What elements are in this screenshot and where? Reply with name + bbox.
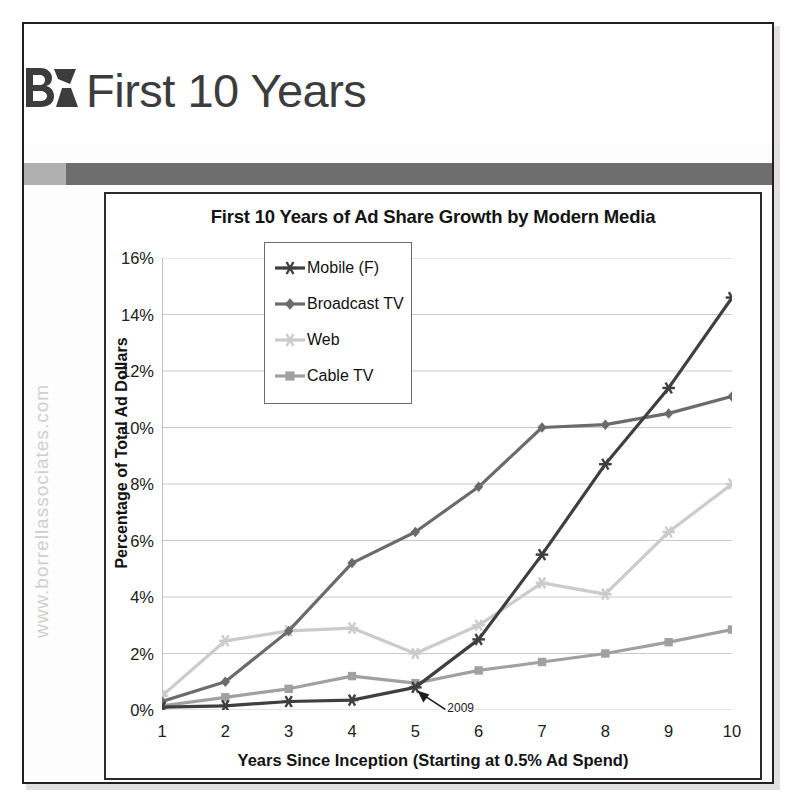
y-tick-label: 14%	[121, 305, 154, 324]
plot-area: 0%2%4%6%8%10%12%14%16% 12345678910 2009	[162, 258, 732, 710]
legend-label: Mobile (F)	[307, 259, 379, 277]
x-tick-label: 7	[537, 722, 546, 741]
x-tick-label: 8	[601, 722, 610, 741]
x-tick-label: 2	[221, 722, 230, 741]
legend-marker-diamond-icon	[273, 296, 307, 312]
chart-title: First 10 Years of Ad Share Growth by Mod…	[106, 206, 760, 228]
legend-label: Broadcast TV	[307, 295, 404, 313]
chart-legend: Mobile (F) Broadcast TV Web Cable TV	[264, 242, 412, 404]
series-web	[162, 479, 732, 702]
x-tick-label: 6	[474, 722, 483, 741]
legend-item-web[interactable]: Web	[273, 322, 406, 358]
legend-marker-square-icon	[273, 368, 307, 384]
y-tick-label: 8%	[130, 475, 154, 494]
x-axis-title: Years Since Inception (Starting at 0.5% …	[106, 751, 760, 770]
x-tick-label: 1	[157, 722, 166, 741]
x-tick-label: 5	[411, 722, 420, 741]
x-tick-label: 10	[723, 722, 741, 741]
y-tick-label: 12%	[121, 362, 154, 381]
legend-item-broadcast-tv[interactable]: Broadcast TV	[273, 286, 406, 322]
legend-marker-star-icon	[273, 332, 307, 348]
gridlines	[162, 258, 732, 710]
legend-marker-star-icon	[273, 260, 307, 276]
y-tick-label: 0%	[130, 701, 154, 720]
legend-item-cable-tv[interactable]: Cable TV	[273, 358, 406, 394]
y-tick-label: 4%	[130, 588, 154, 607]
x-tick-label: 3	[284, 722, 293, 741]
x-tick-label: 9	[664, 722, 673, 741]
y-tick-label: 2%	[130, 644, 154, 663]
data-series-layer	[162, 292, 732, 710]
legend-item-mobile[interactable]: Mobile (F)	[273, 250, 406, 286]
legend-label: Web	[307, 331, 340, 349]
x-tick-label: 4	[347, 722, 356, 741]
chart-container: First 10 Years of Ad Share Growth by Mod…	[104, 192, 762, 780]
annotation-layer	[417, 690, 445, 709]
series-broadcast-tv	[162, 391, 732, 707]
y-tick-label: 16%	[121, 249, 154, 268]
borrell-associates-logo-icon	[24, 66, 80, 118]
annotation-2009-label: 2009	[447, 701, 474, 715]
y-tick-label: 10%	[121, 418, 154, 437]
scanned-page: First 10 Years www.borrellassociates.com…	[0, 0, 794, 808]
legend-label: Cable TV	[307, 367, 373, 385]
page-title: First 10 Years	[86, 62, 366, 120]
divider-bar-dark	[66, 163, 772, 185]
chart-svg	[162, 258, 732, 710]
y-tick-label: 6%	[130, 531, 154, 550]
slide-header: First 10 Years	[24, 24, 772, 144]
